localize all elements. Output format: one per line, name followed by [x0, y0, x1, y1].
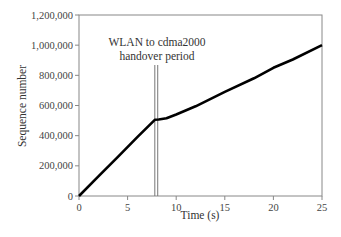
y-tick-label: 400,000: [39, 130, 73, 141]
y-tick-label: 1,200,000: [31, 10, 73, 21]
annotation-line1: WLAN to cdma2000: [108, 36, 205, 48]
x-axis-label: Time (s): [181, 209, 220, 222]
y-tick-label: 0: [68, 191, 73, 202]
y-axis: 0200,000400,000600,000800,0001,000,0001,…: [31, 10, 79, 202]
y-tick-label: 800,000: [39, 70, 73, 81]
x-tick-label: 0: [76, 202, 81, 213]
x-tick-label: 20: [268, 202, 279, 213]
y-axis-label: Sequence number: [16, 65, 29, 147]
x-tick-label: 25: [317, 202, 328, 213]
y-tick-label: 600,000: [39, 100, 73, 111]
y-tick-label: 200,000: [39, 160, 73, 171]
x-tick-label: 15: [220, 202, 231, 213]
sequence-number-line: [79, 45, 322, 196]
x-tick-label: 5: [125, 202, 130, 213]
annotation-line2: handover period: [119, 50, 194, 63]
y-tick-label: 1,000,000: [31, 40, 73, 51]
chart: 0200,000400,000600,000800,0001,000,0001,…: [0, 0, 341, 237]
